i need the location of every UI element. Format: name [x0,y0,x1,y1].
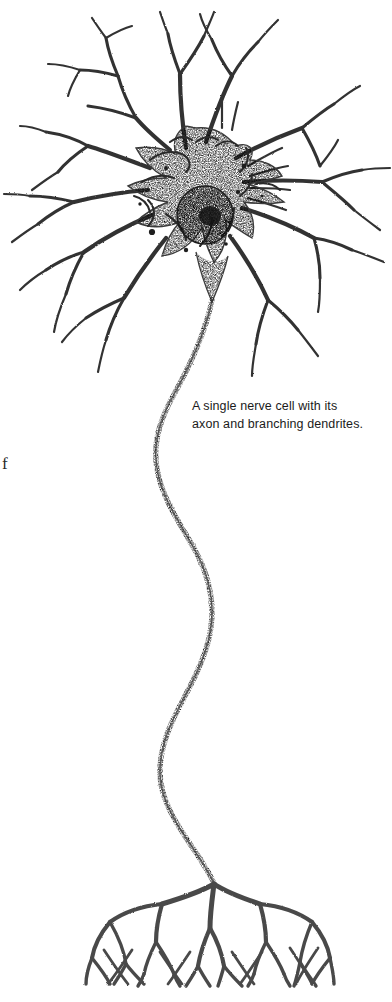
caption-line-1: A single nerve cell with its [192,397,382,415]
neuron-diagram [0,0,392,1002]
neuron-figure: A single nerve cell with its axon and br… [0,0,392,1002]
margin-text-fragment: f [2,455,8,472]
caption-line-2: axon and branching dendrites. [192,415,382,433]
axon-terminals [86,884,334,986]
figure-caption: A single nerve cell with its axon and br… [192,397,382,433]
nucleolus [199,206,221,226]
axon [156,252,228,884]
